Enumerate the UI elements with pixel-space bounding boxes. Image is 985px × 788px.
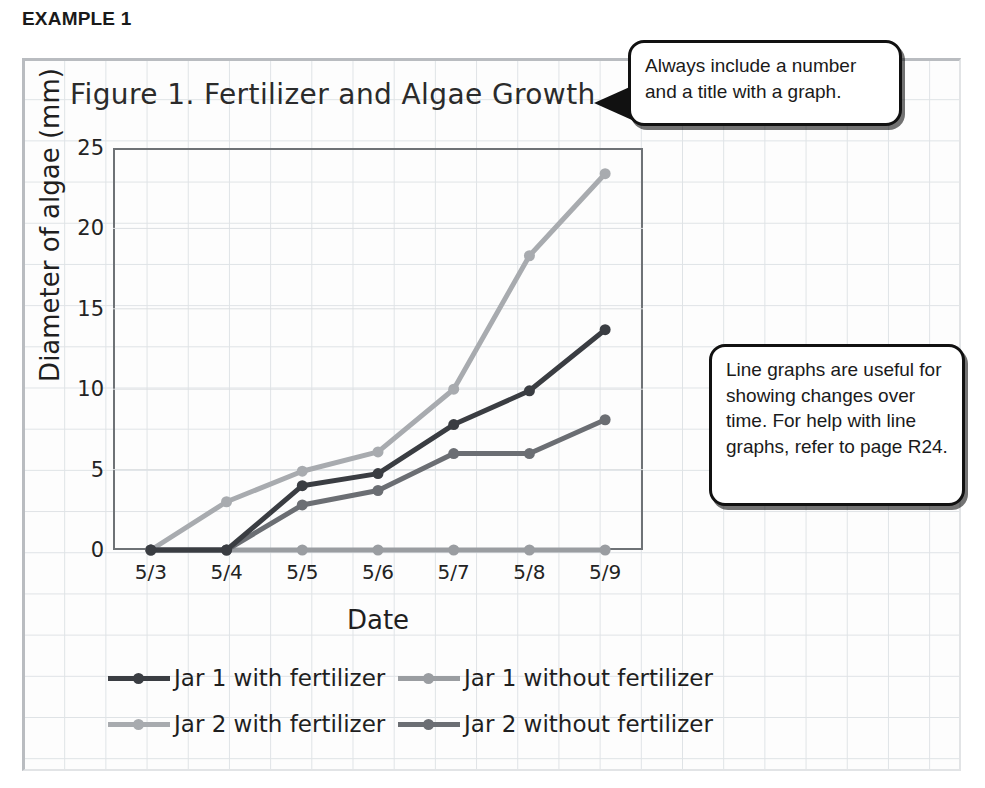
callout-linegraph-note: Line graphs are useful for showing chang… — [709, 344, 965, 506]
data-point — [448, 384, 459, 395]
y-axis-ticks: 0510152025 — [62, 148, 104, 550]
y-tick-15: 15 — [77, 297, 104, 321]
data-point — [297, 466, 308, 477]
data-point — [373, 446, 384, 457]
chart-legend: Jar 1 with fertilizerJar 1 without ferti… — [108, 655, 708, 747]
series-jar-1-with-fertilizer — [145, 324, 610, 555]
legend-label: Jar 1 without fertilizer — [464, 665, 713, 691]
data-point — [448, 545, 459, 556]
x-tick-5-5: 5/5 — [286, 560, 318, 584]
data-point — [221, 545, 232, 556]
plot-area — [113, 148, 643, 550]
x-tick-5-9: 5/9 — [589, 560, 621, 584]
data-point — [373, 468, 384, 479]
series-layer — [113, 148, 643, 550]
data-point — [373, 485, 384, 496]
legend-item[interactable]: Jar 1 with fertilizer — [108, 655, 398, 701]
y-axis-label: Diameter of algae (mm) — [35, 35, 65, 415]
y-tick-5: 5 — [91, 458, 104, 482]
chart-title: Figure 1. Fertilizer and Algae Growth — [70, 78, 596, 111]
data-point — [448, 448, 459, 459]
data-point — [600, 414, 611, 425]
legend-item[interactable]: Jar 2 with fertilizer — [108, 701, 398, 747]
callout-title-note: Always include a number and a title with… — [628, 40, 902, 126]
legend-swatch-icon — [108, 717, 170, 731]
data-point — [221, 496, 232, 507]
legend-swatch-icon — [108, 671, 170, 685]
legend-label: Jar 1 with fertilizer — [174, 665, 385, 691]
series-jar-2-without-fertilizer — [145, 414, 610, 555]
legend-label: Jar 2 without fertilizer — [464, 711, 713, 737]
series-line — [151, 420, 605, 550]
legend-swatch-icon — [398, 717, 460, 731]
callout-linegraph-note-text: Line graphs are useful for showing chang… — [726, 357, 948, 460]
data-point — [524, 448, 535, 459]
data-point — [297, 480, 308, 491]
y-tick-20: 20 — [77, 216, 104, 240]
x-axis-label: Date — [113, 605, 643, 635]
y-tick-0: 0 — [91, 538, 104, 562]
y-tick-25: 25 — [77, 136, 104, 160]
data-point — [524, 545, 535, 556]
legend-swatch-icon — [398, 671, 460, 685]
series-jar-2-with-fertilizer — [145, 168, 610, 555]
y-tick-10: 10 — [77, 377, 104, 401]
data-point — [297, 499, 308, 510]
x-tick-5-6: 5/6 — [362, 560, 394, 584]
legend-item[interactable]: Jar 2 without fertilizer — [398, 701, 708, 747]
x-tick-5-8: 5/8 — [513, 560, 545, 584]
legend-item[interactable]: Jar 1 without fertilizer — [398, 655, 708, 701]
callout-arrow-icon — [594, 86, 632, 120]
x-tick-5-3: 5/3 — [135, 560, 167, 584]
x-tick-5-4: 5/4 — [210, 560, 242, 584]
x-tick-5-7: 5/7 — [438, 560, 470, 584]
data-point — [524, 250, 535, 261]
legend-label: Jar 2 with fertilizer — [174, 711, 385, 737]
data-point — [600, 545, 611, 556]
callout-title-note-text: Always include a number and a title with… — [645, 53, 885, 104]
data-point — [297, 545, 308, 556]
data-point — [145, 545, 156, 556]
series-line — [151, 330, 605, 550]
data-point — [524, 385, 535, 396]
data-point — [600, 168, 611, 179]
data-point — [448, 419, 459, 430]
example-label: EXAMPLE 1 — [22, 8, 132, 30]
data-point — [373, 545, 384, 556]
data-point — [600, 324, 611, 335]
x-axis-ticks: 5/35/45/55/65/75/85/9 — [113, 560, 643, 590]
